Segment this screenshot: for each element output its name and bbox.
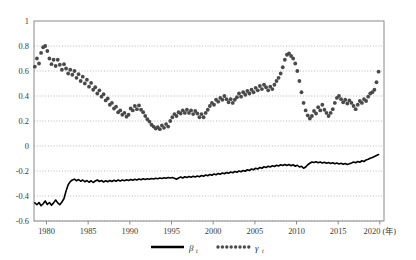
data-point — [191, 112, 195, 116]
data-point — [377, 70, 381, 74]
data-point — [93, 85, 97, 89]
y-tick-label: 1 — [25, 17, 29, 26]
data-point — [339, 97, 343, 101]
data-point — [39, 51, 43, 55]
data-point — [227, 100, 231, 104]
data-point — [320, 103, 324, 107]
legend-dot — [243, 245, 246, 248]
data-point — [291, 57, 295, 61]
data-point — [375, 80, 379, 84]
data-point — [79, 79, 83, 83]
legend-dot — [230, 245, 233, 248]
data-point — [310, 114, 314, 118]
data-point — [216, 100, 220, 104]
data-point — [316, 105, 320, 109]
x-tick-label: 2005 — [246, 227, 263, 236]
data-point — [225, 97, 229, 101]
data-point — [293, 62, 297, 66]
data-point — [198, 115, 202, 119]
data-point — [329, 111, 333, 115]
data-point — [189, 108, 193, 112]
data-point — [170, 115, 174, 119]
data-point — [68, 68, 72, 72]
y-tick-label: -0.6 — [16, 217, 29, 226]
data-point — [314, 112, 318, 116]
data-point — [277, 76, 281, 80]
data-point — [148, 120, 152, 124]
data-point — [52, 58, 56, 62]
data-point — [33, 65, 37, 69]
data-point — [354, 107, 358, 111]
data-point — [373, 88, 377, 92]
data-point — [137, 103, 141, 107]
data-point — [62, 62, 66, 66]
data-point — [260, 87, 264, 91]
data-point — [162, 126, 166, 130]
data-point — [283, 58, 287, 62]
data-point — [252, 90, 256, 94]
data-point — [83, 82, 87, 86]
data-point — [302, 101, 306, 105]
data-point — [325, 111, 329, 115]
data-point — [248, 92, 252, 96]
data-point — [123, 111, 127, 115]
data-point — [66, 72, 70, 76]
data-point — [60, 68, 64, 72]
x-tick-label: 1980 — [38, 227, 55, 236]
x-tick-label: 1990 — [121, 227, 138, 236]
data-point — [208, 104, 212, 108]
data-point — [166, 125, 170, 129]
x-tick-label: 2020 (年) — [364, 226, 397, 236]
data-point — [229, 97, 233, 101]
y-tick-label: 0.8 — [19, 42, 29, 51]
data-point — [133, 104, 137, 108]
data-point — [264, 85, 268, 89]
data-point — [364, 99, 368, 103]
data-point — [50, 62, 54, 66]
x-tick-label: 2015 — [330, 227, 347, 236]
data-point — [106, 97, 110, 101]
y-tick-label: 0.6 — [19, 67, 29, 76]
data-point — [131, 108, 135, 112]
data-point — [179, 112, 183, 116]
data-point — [266, 88, 270, 92]
data-point — [85, 78, 89, 82]
y-tick-label: 0.2 — [19, 117, 29, 126]
data-point — [350, 101, 354, 105]
legend-label-gamma: γ — [255, 243, 259, 253]
data-point — [98, 88, 102, 92]
data-point — [37, 62, 41, 66]
data-point — [270, 87, 274, 91]
data-point — [306, 113, 310, 117]
data-point — [58, 63, 62, 67]
data-point — [45, 49, 49, 53]
y-axis-tick-labels: 10.80.60.40.20-0.2-0.4-0.6 — [16, 17, 30, 226]
data-point — [81, 75, 85, 79]
data-point — [258, 84, 262, 88]
legend-dot — [234, 245, 237, 248]
data-point — [143, 114, 147, 118]
data-point — [327, 114, 331, 118]
data-point — [175, 114, 179, 118]
data-point — [206, 108, 210, 112]
chart-canvas: 10.80.60.40.20-0.2-0.4-0.6 1980198519901… — [0, 0, 416, 260]
y-tick-label: 0.4 — [19, 92, 30, 101]
data-point — [77, 72, 81, 76]
data-point — [256, 88, 260, 92]
data-point — [200, 112, 204, 116]
data-point — [64, 67, 68, 71]
chart-figure: 10.80.60.40.20-0.2-0.4-0.6 1980198519901… — [0, 0, 416, 260]
data-point — [73, 69, 77, 73]
data-point — [239, 95, 243, 99]
data-point — [273, 83, 277, 87]
data-point — [141, 110, 145, 114]
data-point — [185, 108, 189, 112]
data-point — [345, 102, 349, 106]
legend-label-beta: β — [188, 243, 194, 253]
y-tick-label: -0.4 — [16, 192, 30, 201]
data-point — [275, 79, 279, 83]
data-point — [54, 64, 58, 68]
y-tick-label: -0.2 — [16, 167, 29, 176]
data-point — [243, 93, 247, 97]
data-point — [87, 85, 91, 89]
